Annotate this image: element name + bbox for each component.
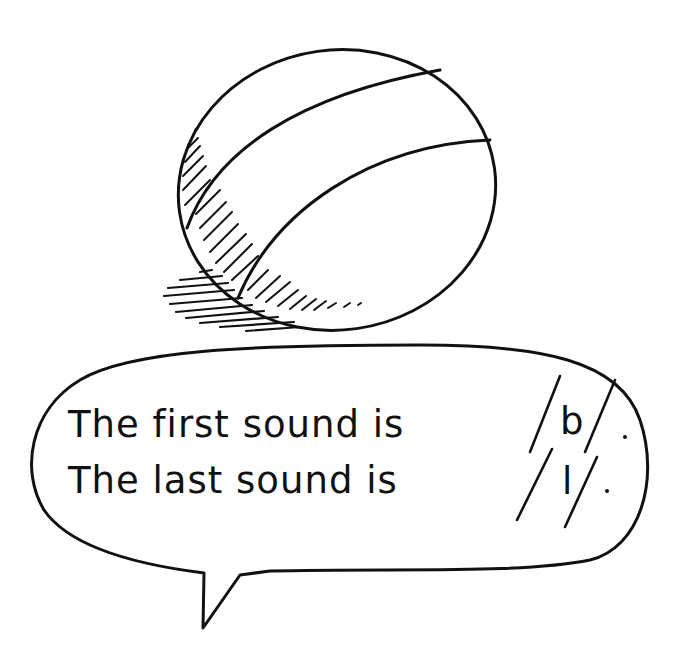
phoneme-1: b — [560, 403, 584, 440]
bubble-line-2-text: The last sound is — [68, 459, 398, 502]
illustration: The first sound is b The last sound is l — [0, 0, 685, 672]
bubble-line-2: The last sound is — [68, 462, 398, 499]
period-dot-2 — [605, 489, 609, 493]
bubble-line-1: The first sound is — [68, 406, 404, 443]
speech-bubble — [0, 0, 685, 672]
phoneme-slashes — [517, 376, 615, 527]
phoneme-2: l — [562, 463, 572, 500]
period-dot-1 — [623, 435, 627, 439]
bubble-line-1-text: The first sound is — [68, 403, 404, 446]
